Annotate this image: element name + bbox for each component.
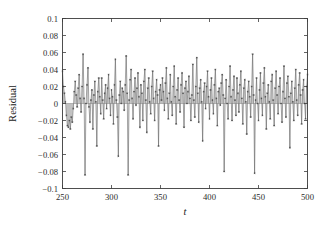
data-point-marker (85, 103, 87, 105)
data-point-marker (226, 103, 228, 105)
data-point-marker (117, 116, 119, 118)
data-point-marker (192, 64, 194, 66)
data-point-marker (280, 103, 282, 105)
data-point-marker (216, 98, 218, 100)
x-tick-label: 500 (301, 192, 314, 202)
data-point-marker (123, 109, 125, 111)
data-point-marker (256, 77, 258, 79)
data-point-marker (285, 116, 287, 118)
data-point-marker (248, 81, 250, 83)
data-point-marker (289, 147, 291, 149)
y-tick-label: 0 (54, 99, 58, 109)
y-axis-tick-labels: −0.1−0.08−0.06−0.04−0.0200.020.040.060.0… (38, 14, 59, 194)
data-point-marker (269, 118, 271, 120)
data-point-marker (224, 98, 226, 100)
data-point-marker (128, 99, 130, 101)
data-point-marker (303, 79, 305, 81)
data-point-marker (281, 121, 283, 123)
data-point-marker (219, 104, 221, 106)
data-point-marker (185, 81, 187, 83)
data-point-marker (109, 98, 111, 100)
data-point-marker (291, 81, 293, 83)
data-point-marker (265, 96, 267, 98)
data-point-marker (104, 92, 106, 94)
data-point-marker (126, 92, 128, 94)
data-point-marker (278, 86, 280, 88)
data-point-marker (65, 101, 67, 103)
data-point-marker (261, 98, 263, 100)
data-point-marker (268, 101, 270, 103)
data-point-marker (78, 74, 80, 76)
y-tick-label: −0.06 (38, 150, 59, 160)
data-point-marker (186, 103, 188, 105)
data-point-marker (161, 99, 163, 101)
data-point-marker (249, 96, 251, 98)
data-point-marker (118, 155, 120, 157)
data-point-marker (129, 79, 131, 81)
series-polyline-group (63, 54, 308, 175)
data-point-marker (215, 69, 217, 71)
data-point-marker (132, 118, 134, 120)
data-point-marker (196, 57, 198, 59)
data-point-marker (108, 74, 110, 76)
data-point-marker (229, 65, 231, 67)
data-point-marker (232, 89, 234, 91)
data-point-marker (242, 123, 244, 125)
data-point-marker (193, 99, 195, 101)
data-point-marker (255, 99, 257, 101)
data-point-marker (93, 94, 95, 96)
data-point-marker (271, 74, 273, 76)
data-point-marker (201, 101, 203, 103)
data-point-marker (243, 87, 245, 89)
data-point-marker (187, 91, 189, 93)
y-tick-label: −0.02 (38, 116, 58, 126)
data-point-marker (211, 77, 213, 79)
data-point-marker (199, 87, 201, 89)
data-point-marker (218, 87, 220, 89)
x-tick-label: 400 (203, 192, 216, 202)
data-point-marker (221, 74, 223, 76)
data-point-marker (245, 101, 247, 103)
data-point-marker (87, 67, 89, 69)
y-tick-label: 0.02 (43, 82, 58, 92)
data-point-marker (298, 84, 300, 86)
data-point-marker (120, 103, 122, 105)
data-point-marker (66, 115, 68, 117)
data-point-marker (207, 70, 209, 72)
data-point-marker (279, 77, 281, 79)
data-point-marker (235, 115, 237, 117)
data-point-marker (180, 84, 182, 86)
data-point-marker (200, 79, 202, 81)
data-point-marker (209, 118, 211, 120)
data-point-marker (135, 104, 137, 106)
chart-canvas: 250300350400450500 −0.1−0.08−0.06−0.04−0… (0, 0, 328, 234)
data-point-marker (96, 145, 98, 147)
data-point-marker (114, 84, 116, 86)
data-point-marker (254, 172, 256, 174)
data-point-marker (99, 96, 101, 98)
data-point-marker (184, 87, 186, 89)
data-point-marker (118, 94, 120, 96)
data-point-marker (171, 115, 173, 117)
y-axis-title: Residual (7, 85, 18, 122)
data-point-marker (150, 113, 152, 115)
data-point-marker (197, 92, 199, 94)
data-point-marker (234, 99, 236, 101)
data-point-marker (139, 126, 141, 128)
data-point-marker (166, 67, 168, 69)
y-tick-label: 0.06 (43, 48, 59, 58)
data-point-marker (82, 53, 84, 55)
data-point-marker (227, 118, 229, 120)
data-point-marker (195, 86, 197, 88)
data-point-marker (73, 91, 75, 93)
data-point-marker (101, 77, 103, 79)
data-point-marker (260, 72, 262, 74)
data-point-marker (294, 87, 296, 89)
data-point-marker (110, 115, 112, 117)
data-point-marker (240, 70, 242, 72)
data-point-marker (284, 98, 286, 100)
data-point-marker (283, 65, 285, 67)
data-point-marker (301, 123, 303, 125)
data-point-marker (239, 84, 241, 86)
data-point-marker (167, 118, 169, 120)
